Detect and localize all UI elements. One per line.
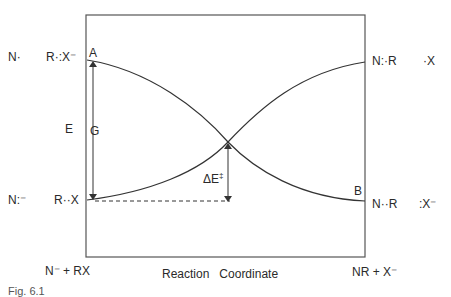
- point-a-label: A: [89, 46, 97, 60]
- right-lower-species-1: N··R: [372, 197, 397, 211]
- x-axis-label: Reaction Coordinate: [162, 267, 278, 281]
- energy-axis-label: E: [65, 122, 73, 136]
- reactants-label: N⁻ + RX: [45, 264, 90, 278]
- right-upper-species-2: ·X: [423, 54, 435, 68]
- right-lower-species-2: :X⁻: [419, 197, 436, 211]
- products-label: NR + X⁻: [352, 265, 397, 279]
- right-upper-species-1: N:·R: [372, 54, 397, 68]
- left-lower-species-1: N:⁻: [8, 193, 26, 207]
- gap-label: G: [90, 124, 99, 138]
- left-upper-species-2: R·:X⁻: [46, 50, 76, 64]
- barrier-label-text: ΔE: [203, 172, 219, 186]
- point-b-label: B: [354, 184, 362, 198]
- barrier-label: ΔE‡: [203, 172, 223, 186]
- left-upper-species-1: N·: [8, 50, 21, 64]
- curve-reactant-to-upper: [87, 62, 365, 200]
- plot-frame: [86, 15, 365, 257]
- curve-a-to-b: [87, 60, 365, 201]
- left-lower-species-2: R··X: [54, 193, 79, 207]
- figure-caption: Fig. 6.1: [8, 285, 45, 297]
- barrier-superscript: ‡: [219, 171, 223, 180]
